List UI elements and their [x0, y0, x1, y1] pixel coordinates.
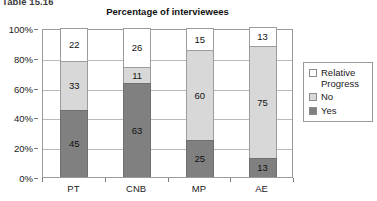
- bar-value-label: 63: [132, 126, 143, 136]
- bar-segment[interactable]: 33: [60, 61, 88, 110]
- bar-value-label: 22: [69, 40, 80, 50]
- y-axis-tick-mark: [34, 29, 38, 30]
- x-axis-tick-mark: [230, 178, 231, 182]
- y-axis-tick-mark: [34, 178, 38, 179]
- bar-group: 137513: [249, 28, 277, 177]
- bar-value-label: 60: [195, 91, 206, 101]
- bar-segment[interactable]: 13: [249, 158, 277, 177]
- bar-value-label: 33: [69, 81, 80, 91]
- x-axis-tick-mark: [168, 178, 169, 182]
- y-axis-tick-label: 60%: [14, 83, 33, 94]
- legend-item[interactable]: Relative Progress: [309, 68, 368, 89]
- legend-swatch-icon: [309, 107, 317, 115]
- bar-value-label: 11: [132, 71, 142, 81]
- bar-value-label: 26: [132, 43, 143, 53]
- stacked-bar[interactable]: 256015: [186, 28, 214, 177]
- bar-group: 256015: [186, 28, 214, 177]
- stacked-bar[interactable]: 631126: [123, 28, 151, 177]
- bar-segment[interactable]: 11: [123, 67, 151, 83]
- bar-value-label: 25: [195, 154, 206, 164]
- bar-segment[interactable]: 60: [186, 50, 214, 139]
- bar-segment[interactable]: 63: [123, 83, 151, 177]
- y-axis-tick-mark: [34, 148, 38, 149]
- bar-value-label: 13: [257, 32, 268, 42]
- legend-swatch-icon: [309, 69, 317, 77]
- x-axis-tick-label: PT: [67, 183, 79, 194]
- legend-item-label: No: [321, 92, 333, 103]
- y-axis-tick-label: 100%: [9, 24, 33, 35]
- bar-segment[interactable]: 25: [186, 140, 214, 177]
- x-axis-tick-label: AE: [255, 183, 268, 194]
- stacked-bar[interactable]: 137513: [249, 27, 277, 177]
- bar-value-label: 45: [69, 139, 80, 149]
- chart-title: Percentage of interviewees: [42, 6, 293, 17]
- legend-item-label: Yes: [321, 106, 337, 117]
- x-axis-tick-mark: [105, 178, 106, 182]
- y-axis-tick-label: 20%: [14, 143, 33, 154]
- bar-segment[interactable]: 45: [60, 110, 88, 177]
- stacked-bar[interactable]: 453322: [60, 28, 88, 177]
- y-axis-tick-label: 80%: [14, 53, 33, 64]
- x-axis-tick-label: MP: [192, 183, 206, 194]
- bar-segment[interactable]: 13: [249, 27, 277, 46]
- legend-item-label: Relative Progress: [321, 68, 368, 89]
- bar-segment[interactable]: 75: [249, 46, 277, 158]
- bar-value-label: 75: [257, 98, 268, 108]
- bar-segment[interactable]: 15: [186, 28, 214, 50]
- bar-segment[interactable]: 26: [123, 28, 151, 67]
- bar-group: 453322: [60, 28, 88, 177]
- y-axis-tick-label: 0%: [19, 173, 33, 184]
- x-axis-tick-label: CNB: [126, 183, 146, 194]
- x-axis-tick-mark: [42, 178, 43, 182]
- legend-item[interactable]: No: [309, 92, 368, 103]
- legend-swatch-icon: [309, 93, 317, 101]
- y-axis-tick-label: 40%: [14, 113, 33, 124]
- y-axis-tick-mark: [34, 89, 38, 90]
- bar-group: 631126: [123, 28, 151, 177]
- legend-item[interactable]: Yes: [309, 106, 368, 117]
- chart-legend: Relative ProgressNoYes: [303, 62, 373, 122]
- bar-value-label: 13: [257, 163, 268, 173]
- y-axis-tick-mark: [34, 59, 38, 60]
- plot-area: 453322631126256015137513: [42, 29, 293, 178]
- x-axis: PTCNBMPAE: [42, 178, 293, 201]
- bar-segment[interactable]: 22: [60, 28, 88, 61]
- bar-value-label: 15: [195, 35, 206, 45]
- y-axis: 0%20%40%60%80%100%: [0, 29, 38, 178]
- x-axis-tick-mark: [293, 178, 294, 182]
- y-axis-tick-mark: [34, 118, 38, 119]
